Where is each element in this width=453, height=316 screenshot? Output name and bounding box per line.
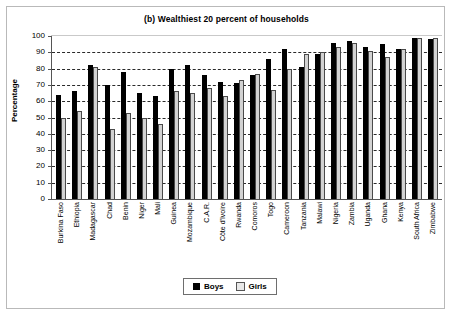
x-axis-tick-labels: Burkina FasoEthiopiaMadagascarChadBeninN… (51, 202, 441, 268)
y-axis-tick-mark (48, 183, 51, 184)
x-axis-tick-cell: Chad (101, 202, 117, 268)
y-axis-tick-mark (48, 52, 51, 53)
bar-girls (336, 47, 341, 199)
bar-girls (368, 51, 373, 199)
bar-group (134, 36, 150, 199)
x-axis-tick-cell: Tanzania (295, 202, 311, 268)
x-axis-tick-cell: Benin (117, 202, 133, 268)
bar-girls (190, 93, 195, 199)
chart-figure: (b) Wealthiest 20 percent of households … (0, 0, 453, 316)
x-axis-tick-cell: Rwanda (230, 202, 246, 268)
y-axis-tick-mark (48, 85, 51, 86)
x-axis-tick-label: Rwanda (234, 202, 241, 228)
x-axis-tick-cell: Comoros (246, 202, 262, 268)
bar-girls (417, 38, 422, 199)
plot-area (51, 36, 442, 200)
y-axis-tick-mark (48, 199, 51, 200)
x-axis-tick-label: Mozambique (186, 202, 193, 242)
girls-swatch-icon (236, 282, 245, 291)
legend-label-girls: Girls (249, 283, 267, 291)
bar-group (102, 36, 118, 199)
x-axis-tick-cell: Zimbabwe (424, 202, 440, 268)
x-axis-tick-cell: Kenya (392, 202, 408, 268)
x-axis-tick-cell: Malawi (311, 202, 327, 268)
y-axis-tick-mark (48, 166, 51, 167)
x-axis-tick-label: South Africa (412, 202, 419, 240)
chart-legend: Boys Girls (183, 278, 277, 295)
x-axis-tick-label: Ethiopia (73, 202, 80, 227)
x-axis-tick-label: Côte d'Ivoire (218, 202, 225, 241)
x-axis-tick-cell: Burkina Faso (52, 202, 68, 268)
y-axis-tick-label: 30 (19, 146, 45, 154)
x-axis-tick-label: Nigeria (332, 202, 339, 224)
bar-group (344, 36, 360, 199)
bar-group (69, 36, 85, 199)
x-axis-tick-cell: Mali (149, 202, 165, 268)
bar-girls (77, 111, 82, 199)
bar-group (166, 36, 182, 199)
bar-series-container (52, 36, 442, 199)
y-axis-tick-mark (48, 118, 51, 119)
chart-title: (b) Wealthiest 20 percent of households (0, 14, 453, 24)
x-axis-tick-cell: Guinea (165, 202, 181, 268)
bar-girls (433, 38, 438, 199)
x-axis-tick-label: C.A.R. (202, 202, 209, 223)
bar-group (328, 36, 344, 199)
bar-girls (61, 118, 66, 200)
x-axis-tick-cell: Ethiopia (68, 202, 84, 268)
bar-girls (142, 118, 147, 200)
bar-group (247, 36, 263, 199)
x-axis-tick-label: Burkina Faso (57, 202, 64, 243)
x-axis-tick-cell: Uganda (359, 202, 375, 268)
bar-group (199, 36, 215, 199)
bar-group (393, 36, 409, 199)
bar-group (263, 36, 279, 199)
y-axis-tick-label: 80 (19, 65, 45, 73)
bar-group (215, 36, 231, 199)
y-axis-tick-mark (48, 134, 51, 135)
y-axis-tick-label: 50 (19, 114, 45, 122)
x-axis-tick-label: Togo (267, 202, 274, 217)
x-axis-tick-label: Kenya (396, 202, 403, 222)
legend-label-boys: Boys (204, 283, 224, 291)
bar-group (150, 36, 166, 199)
x-axis-tick-label: Ghana (380, 202, 387, 223)
legend-item-girls: Girls (236, 282, 267, 291)
x-axis-tick-cell: Cameroon (278, 202, 294, 268)
bar-girls (239, 80, 244, 199)
x-axis-tick-cell: Zambia (343, 202, 359, 268)
bar-group (296, 36, 312, 199)
x-axis-tick-label: Mali (154, 202, 161, 215)
bar-group (53, 36, 69, 199)
bar-girls (126, 113, 131, 199)
bar-girls (174, 91, 179, 199)
bar-girls (401, 49, 406, 199)
bar-girls (158, 124, 163, 199)
bar-girls (320, 52, 325, 199)
y-axis-tick-label: 60 (19, 97, 45, 105)
x-axis-tick-cell: Nigeria (327, 202, 343, 268)
bar-group (182, 36, 198, 199)
y-axis-tick-label: 20 (19, 162, 45, 170)
y-axis-tick-label: 0 (19, 195, 45, 203)
x-axis-tick-cell: South Africa (408, 202, 424, 268)
y-axis-tick-mark (48, 150, 51, 151)
bar-group (231, 36, 247, 199)
x-axis-tick-label: Benin (121, 202, 128, 220)
y-axis-tick-label: 70 (19, 81, 45, 89)
y-axis-tick-mark (48, 101, 51, 102)
bar-group (279, 36, 295, 199)
bar-girls (352, 43, 357, 199)
x-axis-tick-label: Comoros (251, 202, 258, 230)
y-axis-tick-label: 10 (19, 179, 45, 187)
x-axis-tick-label: Madagascar (89, 202, 96, 241)
bar-girls (271, 90, 276, 199)
y-axis-tick-label: 40 (19, 130, 45, 138)
bar-group (312, 36, 328, 199)
bar-group (85, 36, 101, 199)
y-axis-tick-mark (48, 36, 51, 37)
x-axis-tick-label: Guinea (170, 202, 177, 225)
bar-girls (287, 69, 292, 199)
bar-girls (304, 54, 309, 199)
bar-group (376, 36, 392, 199)
